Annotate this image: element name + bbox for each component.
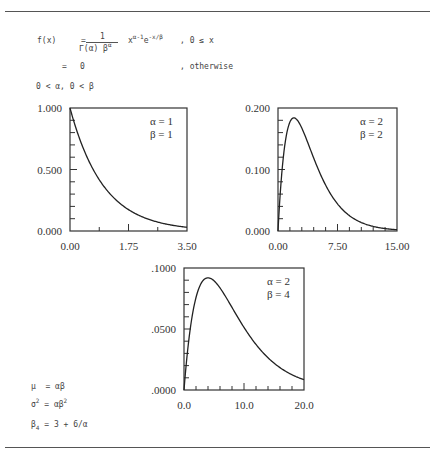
alpha-label: α = 1 — [150, 115, 173, 127]
y-tick-label: 0.200 — [245, 102, 270, 114]
y-tick-label: 0.000 — [245, 225, 270, 237]
alpha-label: α = 2 — [360, 115, 383, 127]
chart-1: 0.0000.5001.0000.001.753.50α = 1β = 1 — [37, 102, 197, 252]
chart-2: 0.0000.1000.2000.007.5015.00α = 2β = 2 — [245, 102, 410, 252]
chart-3: .0000.0500.10000.010.020.0α = 2β = 4 — [151, 262, 314, 411]
y-tick-label: 1.000 — [37, 102, 62, 114]
kurtosis-formula: β4 = 3 + 6/α — [31, 420, 88, 429]
gamma-density-charts: 0.0000.5001.0000.001.753.50α = 1β = 10.0… — [0, 0, 441, 464]
x-tick-label: 15.00 — [385, 240, 410, 252]
y-tick-label: .1000 — [151, 262, 176, 274]
x-tick-label: 0.0 — [177, 399, 191, 411]
x-tick-label: 10.0 — [234, 399, 254, 411]
x-tick-label: 1.75 — [119, 240, 139, 252]
y-tick-label: .0500 — [151, 323, 176, 335]
beta-label: β = 4 — [267, 288, 290, 300]
x-tick-label: 0.00 — [268, 240, 288, 252]
x-tick-label: 0.00 — [60, 240, 80, 252]
y-tick-label: .0000 — [151, 384, 176, 396]
x-tick-label: 20.0 — [294, 399, 314, 411]
bottom-rule — [5, 447, 430, 448]
y-tick-label: 0.000 — [37, 225, 62, 237]
variance-formula: σ2 = αβ2 — [31, 400, 67, 409]
alpha-label: α = 2 — [267, 275, 290, 287]
x-tick-label: 3.50 — [177, 240, 197, 252]
y-tick-label: 0.100 — [245, 164, 270, 176]
y-tick-label: 0.500 — [37, 164, 62, 176]
mean-formula: μ = αβ — [31, 382, 65, 391]
beta-label: β = 1 — [150, 128, 173, 140]
beta-label: β = 2 — [360, 128, 383, 140]
x-tick-label: 7.50 — [328, 240, 348, 252]
